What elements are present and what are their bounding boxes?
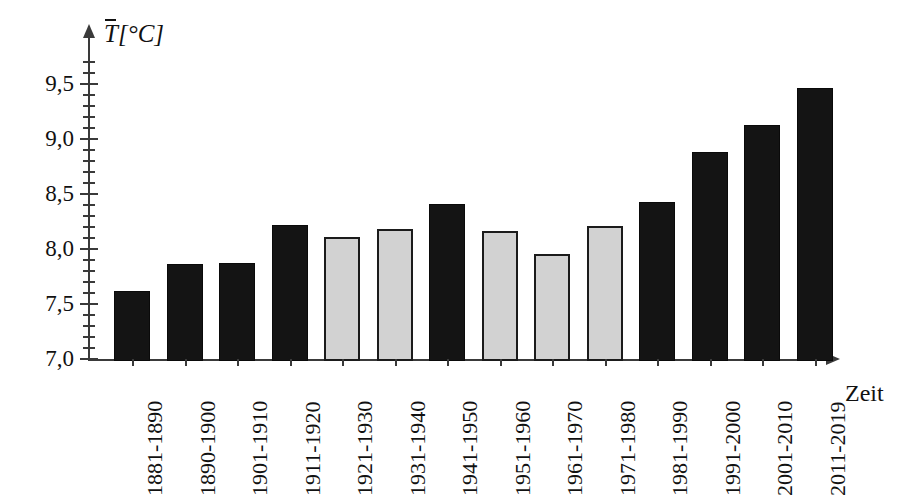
bar[interactable]	[272, 225, 308, 361]
x-tick-label: 1931-1940	[405, 372, 431, 496]
bar[interactable]	[639, 202, 675, 362]
plot-area	[88, 36, 828, 361]
x-tick	[447, 359, 449, 366]
y-tick-label: 8,5	[16, 182, 74, 205]
y-tick-label: 7,0	[16, 347, 74, 370]
x-tick	[395, 359, 397, 366]
x-tick-label: 1911-1920	[300, 372, 326, 496]
bar[interactable]	[167, 264, 203, 361]
y-tick-label: 8,0	[16, 237, 74, 260]
x-tick-label: 1961-1970	[562, 372, 588, 496]
x-tick	[552, 359, 554, 366]
x-tick-label: 1921-1930	[352, 372, 378, 496]
x-tick-label: 1901-1910	[247, 372, 273, 496]
x-tick-label: 1890-1900	[195, 372, 221, 496]
x-tick	[762, 359, 764, 366]
x-tick	[815, 359, 817, 366]
x-tick-label: 1941-1950	[457, 372, 483, 496]
x-tick	[500, 359, 502, 366]
x-tick-label: 1981-1990	[667, 372, 693, 496]
bar[interactable]	[744, 125, 780, 362]
x-tick-label: 2011-2019	[825, 372, 851, 496]
x-tick	[185, 359, 187, 366]
bar[interactable]	[429, 204, 465, 361]
x-tick	[605, 359, 607, 366]
x-tick-label: 2001-2010	[772, 372, 798, 496]
bar[interactable]	[482, 231, 518, 361]
bar[interactable]	[219, 263, 255, 361]
x-tick-label: 1971-1980	[615, 372, 641, 496]
bar[interactable]	[114, 291, 150, 361]
bar[interactable]	[534, 254, 570, 361]
x-tick	[710, 359, 712, 366]
x-tick-label: 1951-1960	[510, 372, 536, 496]
y-tick-label: 9,5	[16, 72, 74, 95]
x-tick	[290, 359, 292, 366]
y-tick-label: 7,5	[16, 292, 74, 315]
bar[interactable]	[587, 226, 623, 361]
x-tick	[342, 359, 344, 366]
x-tick-label: 1991-2000	[720, 372, 746, 496]
x-tick	[657, 359, 659, 366]
bar[interactable]	[377, 229, 413, 361]
y-axis-tick-labels: 7,07,58,08,59,09,5	[12, 0, 74, 400]
bar[interactable]	[324, 237, 360, 361]
x-tick-label: 1881-1890	[142, 372, 168, 496]
x-tick	[237, 359, 239, 366]
y-tick-label: 9,0	[16, 127, 74, 150]
bar[interactable]	[692, 152, 728, 361]
chart-canvas: T[°C] 7,07,58,08,59,09,5 Zeit 1881-18901…	[0, 0, 914, 500]
x-tick	[132, 359, 134, 366]
bar[interactable]	[797, 88, 833, 361]
